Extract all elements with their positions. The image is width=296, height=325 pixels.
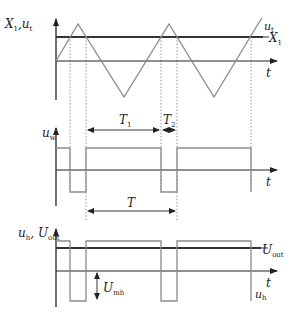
bottom-y-axis-label: uh, Uout xyxy=(18,226,60,242)
bottom-t-axis-label: t xyxy=(266,276,271,290)
middle-y-axis-label: uw xyxy=(42,126,56,142)
triangle-wave-ut xyxy=(56,18,262,97)
t1-label: T1 xyxy=(119,113,131,129)
dotted-guide-lines xyxy=(70,37,251,222)
top-panel: X1,ut ut X1 t xyxy=(4,17,282,100)
pwm-timing-diagram: X1,ut ut X1 t uw T1 T2 T t uh, Uout Umh … xyxy=(0,0,296,325)
t2-label: T2 xyxy=(163,113,175,129)
bottom-panel: uh, Uout Umh Uout t uh xyxy=(18,226,284,307)
uout-series-label: Uout xyxy=(262,243,284,259)
x1-series-label: X1 xyxy=(268,31,282,47)
middle-t-axis-label: t xyxy=(266,175,271,189)
umh-label: Umh xyxy=(103,281,125,297)
middle-panel: uw T1 T2 T t xyxy=(42,113,277,211)
top-y-axis-label: X1,ut xyxy=(4,17,33,33)
top-t-axis-label: t xyxy=(266,66,271,80)
uh-series-label: uh xyxy=(255,288,267,302)
t-period-label: T xyxy=(127,196,136,210)
